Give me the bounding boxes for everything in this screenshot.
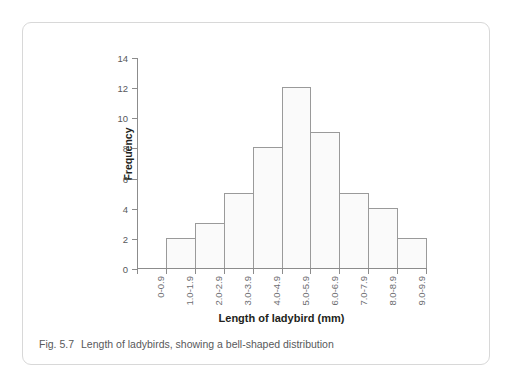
y-tick-mark [132,148,137,149]
figure-caption-text: Length of ladybirds, showing a bell-shap… [81,338,334,350]
y-tick-mark [132,58,137,59]
y-tick-label: 2 [123,233,128,244]
y-tick-label: 14 [117,53,128,64]
x-tick-label-6.0-6.9: 6.0-6.9 [329,276,340,306]
y-tick-mark [132,88,137,89]
x-tick-mark [224,269,225,274]
bar-9.0-9.9 [397,238,427,268]
x-tick-mark [310,269,311,274]
x-tick-mark [339,269,340,274]
x-tick-mark [397,269,398,274]
bar-8.0-8.9 [368,208,398,268]
plot-area: 02468101214 0-0.91.0-1.92.0-2.93.0-3.94.… [137,58,426,269]
y-tick-label: 0 [123,264,128,275]
x-tick-mark [368,269,369,274]
y-tick-label: 8 [123,143,128,154]
y-tick-mark [132,118,137,119]
figure-container: Frequency 02468101214 0-0.91.0-1.92.0-2.… [22,22,490,365]
x-tick-mark [195,269,196,274]
bar-7.0-7.9 [339,193,369,268]
x-tick-label-3.0-3.9: 3.0-3.9 [242,276,253,306]
x-tick-label-5.0-5.9: 5.0-5.9 [300,276,311,306]
figure-number: Fig. 5.7 [39,338,74,350]
x-tick-label-8.0-8.9: 8.0-8.9 [387,276,398,306]
bar-2.0-2.9 [195,223,225,268]
figure-caption: Fig. 5.7Length of ladybirds, showing a b… [39,338,334,350]
y-tick-label: 10 [117,113,128,124]
bar-3.0-3.9 [224,193,254,268]
x-tick-label-7.0-7.9: 7.0-7.9 [358,276,369,306]
y-tick-mark [132,239,137,240]
x-tick-label-0-0.9: 0-0.9 [155,276,166,298]
y-tick-mark [132,209,137,210]
bar-6.0-6.9 [310,132,340,268]
x-tick-label-4.0-4.9: 4.0-4.9 [271,276,282,306]
x-tick-label-9.0-9.9: 9.0-9.9 [416,276,427,306]
y-tick-label: 6 [123,173,128,184]
x-axis-title: Length of ladybird (mm) [137,312,426,324]
x-tick-mark [426,269,427,274]
y-tick-mark [132,179,137,180]
x-tick-mark [282,269,283,274]
x-tick-label-2.0-2.9: 2.0-2.9 [213,276,224,306]
y-tick-label: 4 [123,203,128,214]
bar-1.0-1.9 [166,238,196,268]
x-tick-mark [166,269,167,274]
bar-5.0-5.9 [282,87,311,268]
bar-4.0-4.9 [253,147,283,268]
x-tick-mark [137,269,138,274]
x-tick-mark [253,269,254,274]
histogram-chart: Frequency 02468101214 0-0.91.0-1.92.0-2.… [23,23,491,366]
y-tick-label: 12 [117,83,128,94]
y-axis-line [137,58,138,269]
x-tick-label-1.0-1.9: 1.0-1.9 [184,276,195,306]
